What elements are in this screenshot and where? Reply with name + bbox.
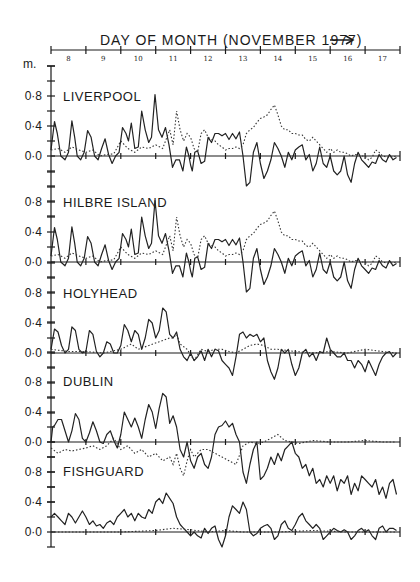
day-tick-label: 17 bbox=[378, 55, 387, 63]
dotted-series-line bbox=[51, 211, 397, 266]
y-tick-label: 0·0 bbox=[25, 525, 43, 539]
dotted-series-line bbox=[51, 105, 397, 160]
y-tick-label: 0·8 bbox=[25, 89, 43, 103]
day-tick-label: 16 bbox=[343, 55, 352, 63]
y-axis bbox=[47, 66, 55, 547]
surge-chart: DAY OF MONTH (NOVEMBER 1977) 89101112131… bbox=[0, 0, 420, 582]
panel-fishguard: 0·80·40·0FISHGUARD bbox=[25, 464, 400, 547]
station-label: LIVERPOOL bbox=[63, 89, 141, 104]
day-tick-label: 11 bbox=[169, 55, 178, 63]
dotted-series-line bbox=[51, 334, 397, 360]
y-tick-label: 0·4 bbox=[25, 316, 43, 330]
y-tick-label: 0·8 bbox=[25, 195, 43, 209]
y-tick-label: 0·4 bbox=[25, 225, 43, 239]
station-label: HILBRE ISLAND bbox=[63, 195, 167, 210]
solid-series-line bbox=[51, 201, 397, 293]
day-axis: 891011121314151617 bbox=[51, 46, 400, 63]
y-tick-label: 0·4 bbox=[25, 405, 43, 419]
panel-holyhead: 0·80·40·0HOLYHEAD bbox=[25, 286, 400, 379]
panel-hilbre-island: 0·80·40·0HILBRE ISLAND bbox=[25, 195, 400, 292]
solid-series-line bbox=[51, 493, 397, 547]
y-tick-label: 0·8 bbox=[25, 375, 43, 389]
y-tick-label: 0·8 bbox=[25, 286, 43, 300]
day-tick-label: 9 bbox=[101, 55, 105, 63]
y-unit-label: m. bbox=[23, 57, 36, 71]
y-tick-label: 0·0 bbox=[25, 435, 43, 449]
station-label: FISHGUARD bbox=[63, 464, 144, 479]
solid-series-line bbox=[51, 95, 397, 187]
y-tick-label: 0·0 bbox=[25, 255, 43, 269]
y-tick-label: 0·0 bbox=[25, 346, 43, 360]
station-label: HOLYHEAD bbox=[63, 286, 138, 301]
y-tick-label: 0·4 bbox=[25, 495, 43, 509]
solid-series-line bbox=[51, 393, 397, 498]
station-label: DUBLIN bbox=[63, 374, 114, 389]
day-tick-label: 10 bbox=[134, 55, 143, 63]
chart-title: DAY OF MONTH (NOVEMBER 1977) bbox=[100, 32, 362, 48]
solid-series-line bbox=[51, 308, 397, 379]
y-tick-label: 0·4 bbox=[25, 119, 43, 133]
y-tick-label: 0·0 bbox=[25, 149, 43, 163]
panel-dublin: 0·80·40·0DUBLIN bbox=[25, 374, 400, 498]
chart-header: DAY OF MONTH (NOVEMBER 1977) bbox=[100, 32, 362, 48]
station-panels: 0·80·40·0LIVERPOOL0·80·40·0HILBRE ISLAND… bbox=[25, 89, 400, 547]
day-tick-label: 15 bbox=[308, 55, 317, 63]
day-tick-label: 13 bbox=[238, 55, 247, 63]
day-tick-label: 8 bbox=[66, 55, 70, 63]
panel-liverpool: 0·80·40·0LIVERPOOL bbox=[25, 89, 400, 186]
day-tick-label: 12 bbox=[204, 55, 213, 63]
day-tick-label: 14 bbox=[273, 55, 282, 63]
y-tick-label: 0·8 bbox=[25, 465, 43, 479]
